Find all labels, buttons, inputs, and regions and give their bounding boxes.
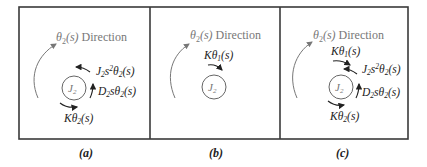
direction-arrow-icon [293,42,312,98]
damping-torque-arrow-icon [90,84,93,98]
inertia-label: J2 [208,81,217,95]
spring-torque-arrow-icon [60,103,77,107]
force-label-spring: Kθ2(s) [63,112,93,126]
direction-arrow-icon [34,44,56,98]
input-torque-arrow-icon [208,65,222,70]
inertia-label: J2 [68,82,77,96]
direction-label: θ2(s) Direction [190,28,261,44]
direction-label: θ2(s) Direction [56,30,127,46]
panel-a: θ2(s) Direction J2 J2s2θ2(s) D2sθ2(s) Kθ… [34,30,136,126]
inertia-torque-arrow-icon [76,67,90,72]
caption-c: (c) [336,146,349,160]
force-label-inertia: J2s2θ2(s) [362,62,401,77]
spring-torque-arrow-icon [328,101,344,105]
force-label-spring-input: Kθ1(s) [330,45,360,59]
caption-a: (a) [79,146,93,160]
panel-b: θ2(s) Direction Kθ1(s) J2 [170,28,261,99]
force-label-damping: D2sθ2(s) [97,85,136,99]
input-torque-arrow-icon [333,61,350,65]
force-label-spring-input: Kθ1(s) [203,49,233,63]
direction-label: θ2(s) Direction [313,28,384,44]
inertia-label: J2 [335,81,344,95]
force-label-damping: D2sθ2(s) [361,86,400,100]
direction-arrow-icon [170,44,189,98]
panel-c: θ2(s) Direction Kθ1(s) J2s2θ2(s) J2 D2sθ… [293,28,401,124]
damping-torque-arrow-icon [356,84,359,98]
free-body-diagram-figure: θ2(s) Direction J2 J2s2θ2(s) D2sθ2(s) Kθ… [0,0,427,167]
inertia-torque-arrow-icon [344,69,357,74]
force-label-spring: Kθ2(s) [329,110,359,124]
caption-b: (b) [209,146,223,160]
force-label-inertia: J2s2θ2(s) [96,64,135,79]
